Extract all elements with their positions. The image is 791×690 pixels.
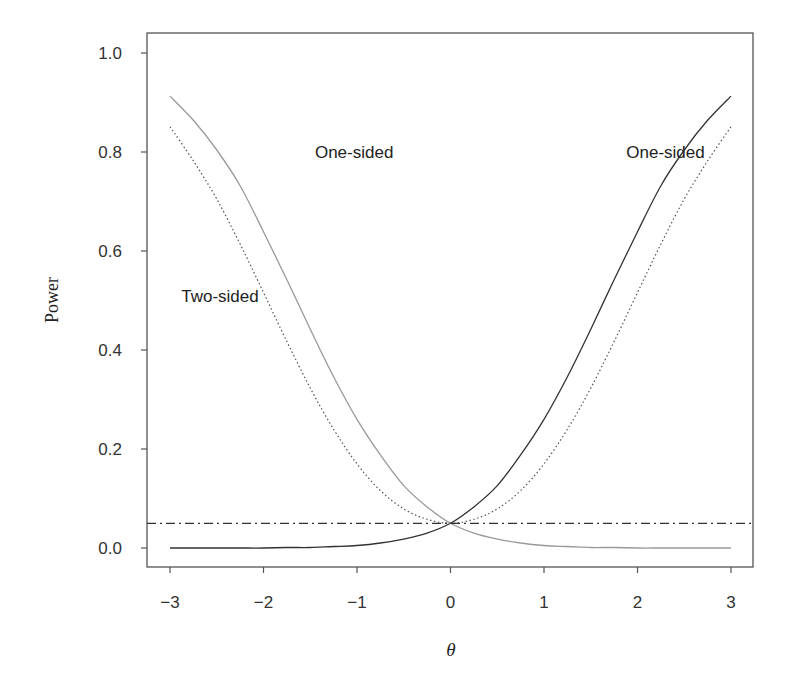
x-axis-title: θ xyxy=(446,639,455,660)
x-tick-label: −3 xyxy=(160,593,179,612)
power-curve-chart: 0.00.20.40.60.81.0 −3−2−10123 One-sidedO… xyxy=(0,0,791,690)
x-axis: −3−2−10123 xyxy=(160,567,735,612)
two-sided-curve xyxy=(170,127,731,524)
x-tick-label: 1 xyxy=(539,593,548,612)
x-tick-label: −1 xyxy=(347,593,366,612)
y-tick-label: 0.0 xyxy=(98,539,122,558)
y-tick-label: 1.0 xyxy=(98,44,122,63)
one-sided-left-curve xyxy=(170,96,731,548)
curve-annotation: One-sided xyxy=(315,143,393,162)
series-layer xyxy=(147,96,753,548)
y-tick-label: 0.4 xyxy=(98,341,122,360)
x-tick-label: 2 xyxy=(633,593,642,612)
y-tick-label: 0.8 xyxy=(98,143,122,162)
x-tick-label: −2 xyxy=(254,593,273,612)
curve-annotation: Two-sided xyxy=(181,287,258,306)
y-tick-label: 0.6 xyxy=(98,242,122,261)
x-tick-label: 3 xyxy=(726,593,735,612)
y-tick-label: 0.2 xyxy=(98,440,122,459)
y-axis-title: Power xyxy=(42,277,62,323)
one-sided-right-curve xyxy=(170,96,731,548)
curve-annotation: One-sided xyxy=(626,143,704,162)
x-tick-label: 0 xyxy=(446,593,455,612)
y-axis: 0.00.20.40.60.81.0 xyxy=(98,44,147,558)
